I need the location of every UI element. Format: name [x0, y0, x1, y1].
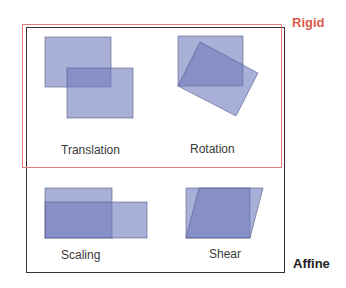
affine-group-label: Affine: [293, 256, 330, 271]
transformations-diagram: [0, 0, 346, 288]
scaling-label: Scaling: [61, 248, 100, 262]
shear-label: Shear: [209, 247, 241, 261]
translation-label: Translation: [61, 143, 120, 157]
scaling-scaled-rect: [45, 202, 147, 238]
translation-figure: [45, 37, 133, 118]
rigid-group-label: Rigid: [292, 15, 325, 30]
scaling-figure: [45, 188, 147, 238]
shear-sheared-shape: [186, 188, 263, 238]
translation-moved-rect: [67, 68, 133, 118]
rotation-label: Rotation: [190, 142, 235, 156]
shear-figure: [186, 188, 263, 238]
rotation-figure: [178, 36, 258, 116]
